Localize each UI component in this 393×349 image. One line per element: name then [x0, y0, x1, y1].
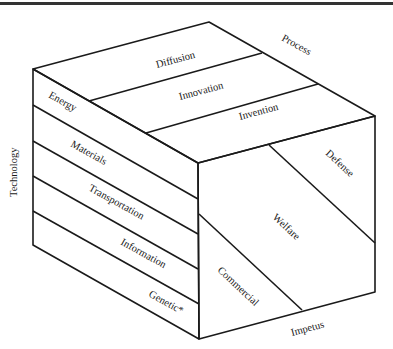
label-invention: Invention: [238, 101, 280, 122]
label-materials: Materials: [69, 138, 109, 167]
label-defense: Defense: [324, 147, 357, 179]
label-welfare: Welfare: [271, 211, 303, 242]
label-diffusion: Diffusion: [155, 49, 197, 70]
axis-label-technology: Technology: [8, 147, 19, 197]
technology-cube-diagram: Diffusion Innovation Invention Energy Ma…: [0, 0, 393, 349]
axis-label-process: Process: [280, 32, 313, 57]
label-information: Information: [119, 236, 169, 270]
label-innovation: Innovation: [178, 79, 226, 102]
label-commercial: Commercial: [216, 264, 262, 307]
axis-label-impetus: Impetus: [290, 319, 326, 338]
